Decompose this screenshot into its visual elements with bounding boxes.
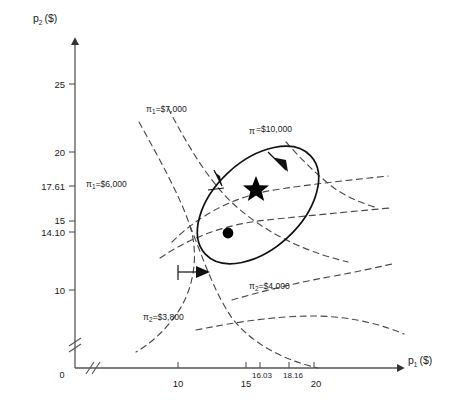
y-axis-label: p2($) [33,12,57,26]
y-tick-label-25: 25 [54,79,65,90]
x-tick-label-15: 15 [241,378,252,389]
y-tick-marks [69,84,75,290]
y-tick-label-10: 10 [54,285,65,296]
arrow-ellipse-upper-right [268,152,288,172]
joint-profit-ellipse [175,124,340,287]
y-tick-label-20: 20 [54,147,65,158]
x-tick-label-18-16: 18.16 [283,371,304,380]
figure-container: 0 25 20 17.61 15 14.10 10 10 15 16.03 18… [0,0,456,405]
isoprofit-curve-pi2-crossing [286,142,378,208]
y-tick-label-17-61: 17.61 [41,181,65,192]
curve-label-pi-10000: π=$10,000 [249,124,292,136]
origin-label: 0 [59,370,64,380]
isoprofit-curve-pi2-3800 [196,316,404,334]
isoprofit-curve-pi2-4000-lower [232,264,392,300]
x-tick-label-10: 10 [173,378,184,389]
y-tick-label-14-10: 14.10 [41,227,65,238]
y-tick-label-15: 15 [54,215,65,226]
curve-label-pi2-4000: π2=$4,000 [249,281,290,292]
curve-label-pi1-6000: π1=$6,000 [86,179,127,190]
price-space-diagram: 0 25 20 17.61 15 14.10 10 10 15 16.03 18… [0,0,456,405]
curve-label-pi2-3800: π2=$3,800 [143,312,184,323]
isoprofit-curve-pi2-4000 [172,176,388,242]
x-tick-label-20: 20 [311,378,322,389]
star-marker [243,176,269,201]
curve-label-pi1-7000: π1=$7,000 [146,104,187,115]
dot-marker [223,228,234,239]
x-axis-label: p1($) [408,354,432,368]
isoprofit-curve-pi1-6000-lower [190,226,318,368]
x-tick-label-16-03: 16.03 [252,371,273,380]
x-tick-marks [178,362,314,368]
